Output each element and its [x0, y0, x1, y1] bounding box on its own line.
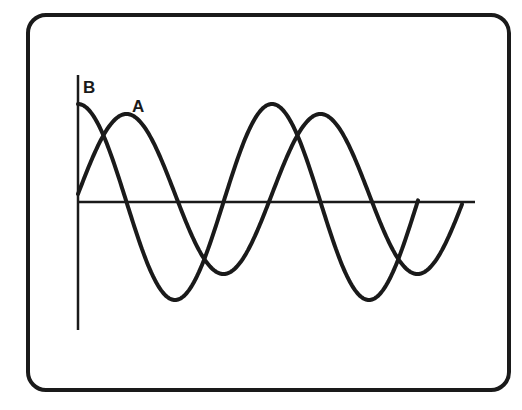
curve-a	[78, 114, 462, 274]
curve-b-label: B	[83, 78, 95, 98]
curve-a-label: A	[132, 97, 144, 117]
waveform-plot	[0, 0, 522, 410]
